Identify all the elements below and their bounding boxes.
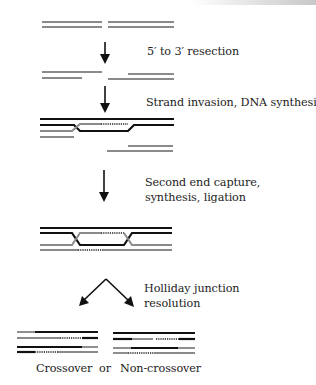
d-loop-intermediate: [40, 119, 174, 151]
outcome-label-or: or: [99, 361, 111, 376]
noncrossover-products: [113, 333, 195, 353]
resected-ends: [42, 72, 174, 79]
down-arrow-icon: [100, 42, 110, 64]
down-arrow-icon: [99, 170, 109, 202]
branching-arrow-icon: [84, 279, 129, 301]
step-label-resection: 5′ to 3′ resection: [147, 44, 239, 59]
step-label-holliday-line1: Holliday junction: [144, 281, 239, 296]
step-label-second-end-capture-line1: Second end capture,: [145, 175, 260, 190]
down-arrow-icon: [100, 86, 110, 113]
step-label-second-end-capture-line2: synthesis, ligation: [145, 190, 246, 205]
step-label-holliday-line2: resolution: [144, 296, 200, 311]
outcome-label-noncrossover: Non-crossover: [120, 361, 201, 376]
step-label-strand-invasion: Strand invasion, DNA synthesis: [146, 95, 316, 110]
outcome-label-crossover: Crossover: [36, 361, 92, 376]
double-holliday-junction: [40, 228, 172, 250]
broken-duplex: [42, 22, 174, 27]
crossover-products: [17, 332, 98, 352]
